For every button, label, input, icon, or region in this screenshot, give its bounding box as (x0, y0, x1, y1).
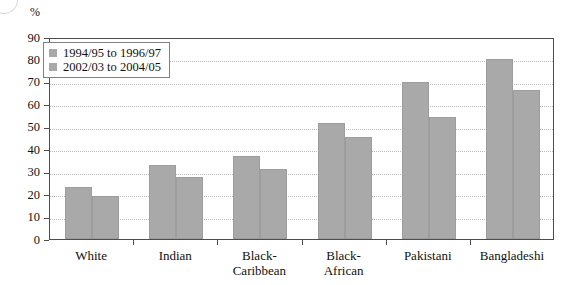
legend-item-label: 1994/95 to 1996/97 (63, 47, 161, 60)
legend-swatch-icon (49, 49, 57, 57)
y-axis-label: 60 (0, 99, 40, 112)
x-axis-tick (470, 240, 471, 245)
x-axis-tick (386, 240, 387, 245)
legend-swatch-icon (49, 63, 57, 71)
bar (233, 156, 260, 239)
bar-chart: % 0102030405060708090 WhiteIndianBlack-C… (0, 0, 562, 285)
y-axis-label: 10 (0, 211, 40, 224)
x-axis-label: Indian (133, 248, 217, 263)
x-axis-label: Black-Caribbean (217, 248, 301, 278)
y-axis-tick (44, 240, 49, 241)
bar (513, 90, 540, 239)
x-axis-label: Black-African (302, 248, 386, 278)
bar (429, 117, 456, 239)
x-axis-label-line: White (75, 248, 107, 263)
x-axis-label: Bangladeshi (470, 248, 554, 263)
y-axis-label: 50 (0, 121, 40, 134)
legend-item: 2002/03 to 2004/05 (49, 60, 161, 74)
y-axis-label: 20 (0, 189, 40, 202)
x-axis-label-line: Bangladeshi (480, 248, 544, 263)
x-axis-tick (133, 240, 134, 245)
bar (92, 196, 119, 239)
bar (402, 82, 429, 239)
x-axis-label-line: African (302, 263, 386, 278)
x-axis-label-line: Caribbean (217, 263, 301, 278)
y-axis-label: 80 (0, 54, 40, 67)
bar (65, 187, 92, 239)
x-axis-label: Pakistani (386, 248, 470, 263)
x-axis-tick (217, 240, 218, 245)
bar (260, 169, 287, 239)
bar (486, 59, 513, 239)
y-axis-label: 90 (0, 32, 40, 45)
bar (149, 165, 176, 239)
bar (345, 137, 372, 239)
legend-item-label: 2002/03 to 2004/05 (63, 61, 161, 74)
x-axis-label: White (49, 248, 133, 263)
x-axis-label-line: Pakistani (404, 248, 452, 263)
y-axis-label: 70 (0, 76, 40, 89)
scan-artifact-icon (0, 0, 21, 17)
x-axis-label-line: Black- (242, 248, 277, 263)
y-axis-unit-label: % (30, 6, 40, 18)
legend-item: 1994/95 to 1996/97 (49, 46, 161, 60)
bar (176, 177, 203, 239)
x-axis-tick (302, 240, 303, 245)
bar (318, 123, 345, 239)
legend: 1994/95 to 1996/97 2002/03 to 2004/05 (43, 42, 170, 78)
x-axis-label-line: Black- (326, 248, 361, 263)
x-axis-label-line: Indian (159, 248, 192, 263)
y-axis-label: 40 (0, 144, 40, 157)
y-axis-label: 30 (0, 166, 40, 179)
y-axis-label: 0 (0, 234, 40, 247)
